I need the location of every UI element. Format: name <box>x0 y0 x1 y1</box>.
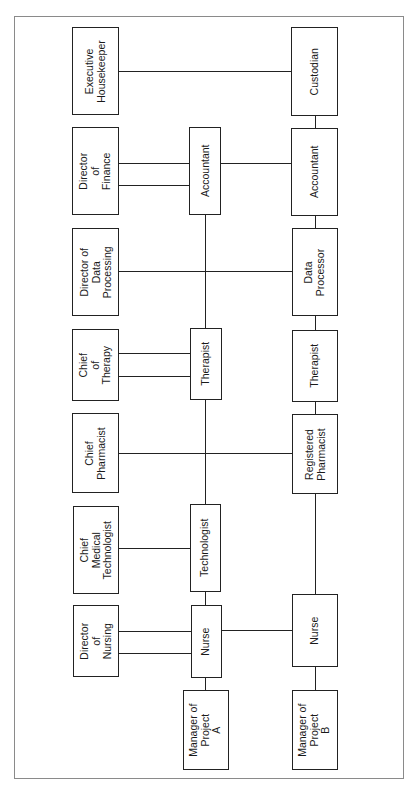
node-a-therapist: Therapist <box>190 328 222 400</box>
node-director-data-processing: Director of Data Processing <box>72 228 119 316</box>
node-chief-medical-technologist: Chief Medical Technologist <box>73 506 119 594</box>
edge-therapy-therapist-1 <box>119 353 191 354</box>
edge-accountant-accountant <box>221 163 292 164</box>
node-a-accountant: Accountant <box>189 127 221 215</box>
node-director-nursing: Director of Nursing <box>73 605 119 677</box>
edge-dataproc-processor <box>119 271 292 272</box>
node-a-nurse: Nurse <box>191 605 222 678</box>
edge-housekeeper-custodian <box>119 71 292 72</box>
node-manager-project-a: Manager of Project A <box>183 690 229 770</box>
node-chief-pharmacist: Chief Pharmacist <box>72 413 119 493</box>
node-executive-housekeeper: Executive Housekeeper <box>72 27 119 115</box>
node-b-accountant: Accountant <box>291 128 338 216</box>
node-b-registered-pharmacist: Registered Pharmacist <box>292 414 338 494</box>
node-chief-therapy: Chief of Therapy <box>72 329 119 401</box>
node-b-nurse: Nurse <box>292 594 338 667</box>
edge-nursing-nurse-2 <box>119 653 191 654</box>
node-director-finance: Director of Finance <box>72 127 119 215</box>
node-b-custodian: Custodian <box>291 27 338 116</box>
org-chart: Executive Housekeeper Director of Financ… <box>0 0 415 791</box>
edge-finance-accountant-2 <box>119 185 189 186</box>
edge-nursing-nurse-1 <box>119 631 191 632</box>
edge-pharmacist-registered <box>119 453 292 454</box>
edge-finance-accountant-1 <box>119 163 189 164</box>
node-manager-project-b: Manager of Project B <box>292 690 338 770</box>
node-b-therapist: Therapist <box>292 330 338 402</box>
node-b-data-processor: Data Processor <box>292 228 338 316</box>
node-a-technologist: Technologist <box>190 504 221 592</box>
edge-therapy-therapist-2 <box>119 376 191 377</box>
edge-nurse-nurse <box>222 630 292 631</box>
edge-medtech-technologist <box>119 548 190 549</box>
